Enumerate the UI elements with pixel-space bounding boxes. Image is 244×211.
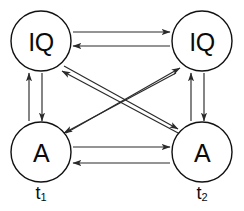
node-label-iq-t1: IQ bbox=[28, 28, 53, 56]
diagram-canvas: IQ IQ A A t1 t2 bbox=[0, 0, 244, 211]
time-label-group: t1 t2 bbox=[35, 183, 207, 203]
time-label-t1-sub: 1 bbox=[40, 191, 46, 203]
edge-iq-t2-to-a-t1 bbox=[64, 73, 176, 133]
node-a-t1: A bbox=[11, 122, 71, 182]
node-group: IQ IQ A A bbox=[11, 11, 232, 182]
node-label-iq-t2: IQ bbox=[189, 28, 214, 56]
node-iq-t2: IQ bbox=[172, 11, 232, 71]
time-label-t2: t2 bbox=[196, 183, 207, 203]
node-iq-t1: IQ bbox=[11, 11, 71, 71]
node-a-t2: A bbox=[172, 122, 232, 182]
time-label-t1: t1 bbox=[35, 183, 46, 203]
cross-lagged-panel-diagram: IQ IQ A A t1 t2 bbox=[0, 0, 244, 211]
time-label-t2-sub: 2 bbox=[201, 191, 207, 203]
node-label-a-t2: A bbox=[194, 139, 211, 167]
node-label-a-t1: A bbox=[33, 139, 50, 167]
edge-iq-t1-to-a-t2 bbox=[64, 66, 178, 129]
